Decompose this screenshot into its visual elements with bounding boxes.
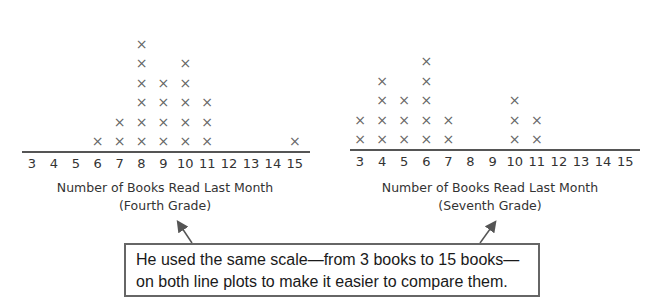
arrow-to-seventh-grade (480, 225, 493, 243)
callout-line-1: He used the same scale—from 3 books to 1… (136, 249, 528, 271)
callout-line-2: on both line plots to make it easier to … (136, 271, 528, 293)
callout-box: He used the same scale—from 3 books to 1… (124, 243, 540, 297)
arrow-to-fourth-grade (180, 225, 192, 243)
